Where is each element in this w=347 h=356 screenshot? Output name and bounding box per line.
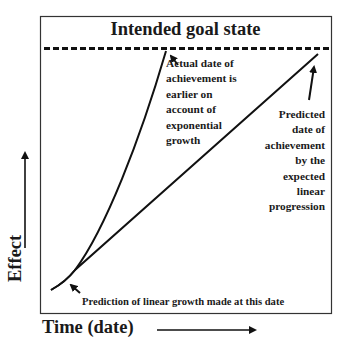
label-line: account of — [166, 102, 237, 117]
label-line: linear — [265, 184, 325, 199]
label-line: Predicted — [265, 107, 325, 122]
label-line: progression — [265, 199, 325, 214]
prediction-note-label: Prediction of linear growth made at this… — [82, 296, 284, 309]
label-line: Actual date of — [166, 56, 237, 71]
label-line: date of — [265, 122, 325, 137]
exponential-growth-curve — [51, 51, 166, 290]
actual-achievement-label: Actual date of achievement is earlier on… — [166, 56, 237, 148]
label-line: exponential — [166, 118, 237, 133]
prediction-point-arrow — [71, 285, 80, 293]
predicted-date-arrow — [309, 67, 314, 100]
label-line: growth — [166, 133, 237, 148]
x-axis-label: Time (date) — [42, 316, 134, 338]
goal-state-label: Intended goal state — [40, 18, 331, 40]
label-line: expected — [265, 169, 325, 184]
label-line: by the — [265, 153, 325, 168]
y-axis-label: Effect — [4, 235, 26, 282]
predicted-achievement-label: Predicted date of achievement by the exp… — [265, 107, 325, 215]
label-line: achievement is — [166, 71, 237, 86]
label-line: earlier on — [166, 87, 237, 102]
label-line: achievement — [265, 138, 325, 153]
